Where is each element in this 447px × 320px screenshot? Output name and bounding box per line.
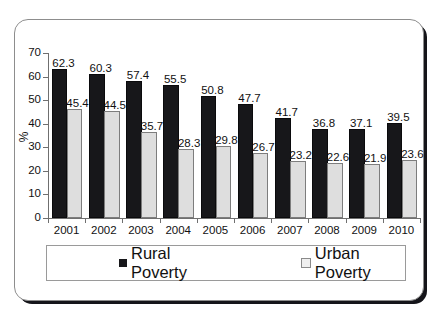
bar-label-rural: 36.8 bbox=[313, 118, 335, 130]
y-tick-mark bbox=[43, 171, 49, 172]
bar-urban[interactable] bbox=[327, 163, 343, 218]
bar-rural[interactable] bbox=[126, 81, 142, 218]
x-axis-label: 2006 bbox=[234, 225, 271, 237]
x-axis-label: 2009 bbox=[346, 225, 383, 237]
legend-item-rural[interactable]: Rural Poverty bbox=[119, 244, 217, 282]
bar-label-rural: 60.3 bbox=[90, 63, 112, 75]
legend-swatch-rural-icon bbox=[119, 259, 127, 267]
y-tick-label: 50 bbox=[28, 94, 41, 106]
bar-label-rural: 41.7 bbox=[276, 107, 298, 119]
bar-label-urban: 45.4 bbox=[66, 98, 88, 110]
y-tick-mark bbox=[43, 100, 49, 101]
bar-urban[interactable] bbox=[178, 149, 194, 218]
bar-label-rural: 47.7 bbox=[238, 93, 260, 105]
chart-legend: Rural Poverty Urban Poverty bbox=[46, 245, 406, 281]
y-axis-line bbox=[48, 53, 49, 218]
bar-label-rural: 57.4 bbox=[127, 70, 149, 82]
bar-rural[interactable] bbox=[312, 129, 328, 218]
bar-label-urban: 44.5 bbox=[104, 100, 126, 112]
bar-rural[interactable] bbox=[89, 74, 105, 218]
legend-swatch-urban-icon bbox=[301, 258, 311, 268]
y-tick-mark bbox=[43, 53, 49, 54]
bar-rural[interactable] bbox=[275, 118, 291, 218]
bar-label-urban: 26.7 bbox=[252, 142, 274, 154]
x-tick-mark bbox=[160, 218, 161, 223]
bar-label-rural: 62.3 bbox=[52, 58, 74, 70]
bar-urban[interactable] bbox=[141, 132, 157, 218]
bar-rural[interactable] bbox=[238, 104, 254, 218]
plot-area: % 010203040506070 62.345.460.344.557.435… bbox=[48, 53, 420, 218]
bar-label-urban: 28.3 bbox=[178, 138, 200, 150]
bar-urban[interactable] bbox=[253, 153, 269, 218]
x-tick-mark bbox=[197, 218, 198, 223]
y-tick-mark bbox=[43, 147, 49, 148]
y-tick-label: 70 bbox=[28, 47, 41, 59]
y-tick-label: 20 bbox=[28, 165, 41, 177]
bar-group bbox=[275, 53, 304, 218]
x-tick-mark bbox=[85, 218, 86, 223]
bar-urban[interactable] bbox=[290, 161, 306, 218]
bar-chart: % 010203040506070 62.345.460.344.557.435… bbox=[14, 19, 422, 299]
bar-rural[interactable] bbox=[201, 96, 217, 218]
x-tick-mark bbox=[234, 218, 235, 223]
legend-label-urban: Urban Poverty bbox=[315, 244, 405, 282]
bar-label-urban: 22.6 bbox=[327, 152, 349, 164]
bar-label-urban: 35.7 bbox=[141, 121, 163, 133]
bar-rural[interactable] bbox=[387, 123, 403, 218]
bar-rural[interactable] bbox=[349, 129, 365, 218]
bar-group bbox=[89, 53, 118, 218]
legend-item-urban[interactable]: Urban Poverty bbox=[301, 244, 405, 282]
x-axis-label: 2002 bbox=[85, 225, 122, 237]
x-axis-label: 2001 bbox=[48, 225, 85, 237]
bar-rural[interactable] bbox=[52, 69, 68, 218]
bar-urban[interactable] bbox=[104, 111, 120, 218]
x-tick-mark bbox=[383, 218, 384, 223]
legend-label-rural: Rural Poverty bbox=[131, 244, 217, 282]
screenshot-root: % 010203040506070 62.345.460.344.557.435… bbox=[0, 0, 447, 320]
y-tick-label: 60 bbox=[28, 71, 41, 83]
bar-urban[interactable] bbox=[364, 164, 380, 218]
y-tick-label: 0 bbox=[35, 212, 41, 224]
bar-rural[interactable] bbox=[163, 85, 179, 218]
x-tick-mark bbox=[122, 218, 123, 223]
x-axis-label: 2007 bbox=[271, 225, 308, 237]
x-axis-label: 2003 bbox=[122, 225, 159, 237]
bar-urban[interactable] bbox=[216, 146, 232, 218]
x-tick-mark bbox=[48, 218, 49, 223]
bar-label-rural: 37.1 bbox=[350, 118, 372, 130]
bar-urban[interactable] bbox=[67, 109, 83, 218]
bar-label-urban: 23.2 bbox=[290, 150, 312, 162]
x-axis-label: 2004 bbox=[160, 225, 197, 237]
bar-label-rural: 39.5 bbox=[387, 112, 409, 124]
x-axis-label: 2005 bbox=[197, 225, 234, 237]
bar-group bbox=[52, 53, 81, 218]
bar-label-rural: 50.8 bbox=[201, 85, 223, 97]
y-tick-mark bbox=[43, 194, 49, 195]
y-tick-mark bbox=[43, 77, 49, 78]
bar-group bbox=[312, 53, 341, 218]
bar-urban[interactable] bbox=[402, 160, 418, 218]
x-tick-mark bbox=[308, 218, 309, 223]
y-tick-label: 40 bbox=[28, 118, 41, 130]
x-tick-mark bbox=[271, 218, 272, 223]
y-tick-mark bbox=[43, 124, 49, 125]
bar-group bbox=[387, 53, 416, 218]
x-axis-label: 2010 bbox=[383, 225, 420, 237]
x-tick-mark bbox=[420, 218, 421, 223]
x-axis-label: 2008 bbox=[308, 225, 345, 237]
bar-label-rural: 55.5 bbox=[164, 74, 186, 86]
y-tick-label: 10 bbox=[28, 189, 41, 201]
bar-label-urban: 23.6 bbox=[401, 149, 423, 161]
bar-label-urban: 29.8 bbox=[215, 135, 237, 147]
y-tick-label: 30 bbox=[28, 142, 41, 154]
bar-group bbox=[349, 53, 378, 218]
bar-group bbox=[238, 53, 267, 218]
bar-label-urban: 21.9 bbox=[364, 153, 386, 165]
x-tick-mark bbox=[346, 218, 347, 223]
